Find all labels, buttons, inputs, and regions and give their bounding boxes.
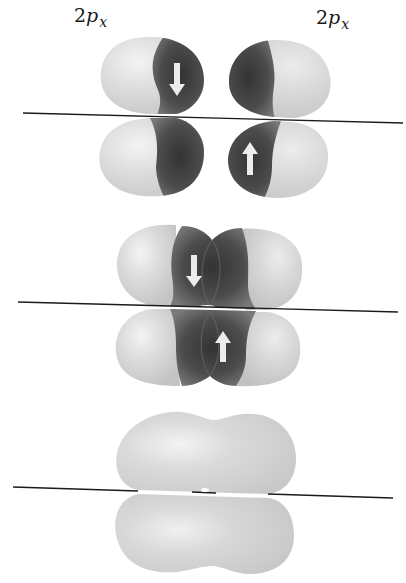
right-orbital-bottom-lobe bbox=[220, 118, 340, 208]
stage-pi-bond bbox=[13, 412, 393, 574]
overlap-left-top-light bbox=[117, 225, 176, 306]
internuclear-axis bbox=[13, 487, 138, 491]
internuclear-axis bbox=[268, 494, 393, 498]
overlap-right-top-light bbox=[242, 229, 302, 310]
internuclear-axis bbox=[23, 113, 403, 123]
stage-overlapping-orbitals bbox=[18, 225, 398, 387]
left-orbital-bottom-lobe bbox=[90, 114, 210, 204]
overlap-left-bottom-light bbox=[116, 309, 180, 386]
stage-separate-orbitals bbox=[23, 30, 403, 208]
right-orbital-top-lobe bbox=[220, 34, 340, 124]
pi-bond-bottom-lobe bbox=[115, 494, 294, 574]
pi-bond-top-lobe bbox=[116, 412, 296, 494]
nodal-gap bbox=[201, 488, 209, 492]
overlap-dark-region-top bbox=[170, 226, 256, 309]
left-orbital-top-lobe bbox=[90, 30, 210, 120]
pi-bond-diagram bbox=[0, 0, 406, 583]
